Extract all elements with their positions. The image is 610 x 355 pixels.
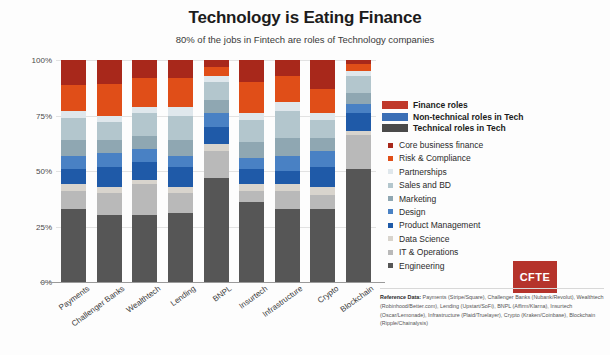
footnote-divider: [380, 288, 604, 289]
bar-infrastructure[interactable]: [275, 60, 300, 282]
bar-segment: [132, 78, 157, 107]
bar-segment: [61, 209, 86, 282]
legend-swatch: [388, 169, 393, 174]
bar-segment: [310, 209, 335, 282]
bar-segment: [204, 76, 229, 83]
legend-item-it-operations[interactable]: IT & Operations: [382, 247, 606, 257]
legend-group-row[interactable]: Technical roles in Tech: [382, 123, 606, 133]
legend-group-row[interactable]: Finance roles: [382, 100, 606, 110]
bar-segment: [275, 156, 300, 172]
legend-item-data-science[interactable]: Data Science: [382, 234, 606, 244]
bar-segment: [204, 178, 229, 282]
bar-segment: [204, 82, 229, 100]
legend-item-engineering[interactable]: Engineering: [382, 261, 606, 271]
legend-group-row[interactable]: Non-technical roles in Tech: [382, 112, 606, 122]
bar-segment: [61, 169, 86, 185]
bar-segment: [346, 76, 371, 94]
legend-label: Marketing: [399, 194, 436, 204]
bar-segment: [275, 111, 300, 138]
legend-series-items: Core business financeRisk & CompliancePa…: [382, 140, 606, 271]
bar-segment: [168, 193, 193, 213]
bar-segment: [168, 156, 193, 167]
bar-segment: [310, 60, 335, 89]
legend-item-product-management[interactable]: Product Management: [382, 220, 606, 230]
legend-item-marketing[interactable]: Marketing: [382, 194, 606, 204]
bar-segment: [310, 89, 335, 113]
bar-segment: [132, 107, 157, 114]
bar-lending[interactable]: [168, 60, 193, 282]
bar-segment: [310, 167, 335, 187]
bar-segment: [239, 184, 264, 191]
legend-groups: Finance rolesNon-technical roles in Tech…: [382, 100, 606, 133]
bar-segment: [132, 149, 157, 162]
bar-segment: [97, 187, 122, 194]
footnote-label: Reference Data:: [380, 294, 421, 300]
bar-segment: [239, 169, 264, 185]
bar-segment: [346, 113, 371, 131]
legend-item-core-business-finance[interactable]: Core business finance: [382, 140, 606, 150]
legend-label: Product Management: [399, 220, 480, 230]
bar-segment: [275, 171, 300, 184]
y-axis: 0%25%50%75%100%: [0, 60, 52, 282]
bar-segment: [239, 142, 264, 158]
x-axis-tick-label: Crypto: [316, 284, 340, 305]
page-title: Technology is Eating Finance: [0, 8, 610, 28]
legend-label: Sales and BD: [399, 180, 451, 190]
legend-item-partnerships[interactable]: Partnerships: [382, 167, 606, 177]
bar-segment: [97, 153, 122, 166]
bar-segment: [97, 215, 122, 282]
bar-segment: [132, 136, 157, 149]
bar-segment: [132, 215, 157, 282]
bar-segment: [204, 127, 229, 145]
bar-segment: [239, 191, 264, 202]
bar-segment: [275, 60, 300, 76]
bar-segment: [168, 107, 193, 116]
x-axis-tick-label: Wealthtech: [125, 284, 163, 315]
y-axis-tick-label: 100%: [4, 56, 52, 65]
bar-challenger-banks[interactable]: [97, 60, 122, 282]
bar-segment: [61, 85, 86, 112]
bar-segment: [61, 118, 86, 140]
x-axis-line: [40, 282, 385, 283]
bar-segment: [168, 78, 193, 107]
bar-segment: [61, 111, 86, 118]
bar-segment: [204, 144, 229, 151]
bar-blockchain[interactable]: [346, 60, 371, 282]
bar-payments[interactable]: [61, 60, 86, 282]
bar-segment: [204, 60, 229, 67]
bar-segment: [310, 151, 335, 167]
bar-segment: [97, 60, 122, 84]
bar-segment: [346, 169, 371, 282]
legend-swatch: [388, 223, 393, 228]
x-axis-tick-label: Insurtech: [237, 284, 269, 311]
bar-crypto[interactable]: [310, 60, 335, 282]
bar-segment: [346, 104, 371, 113]
bar-segment: [132, 184, 157, 215]
bar-segment: [204, 67, 229, 76]
y-axis-tick-label: 25%: [4, 223, 52, 232]
legend-swatch: [388, 236, 393, 241]
legend-swatch: [388, 250, 393, 255]
chart-root: Technology is Eating Finance 80% of the …: [0, 0, 610, 355]
legend-item-risk-compliance[interactable]: Risk & Compliance: [382, 153, 606, 163]
cfte-logo-text: CFTE: [520, 271, 551, 283]
legend-item-sales-and-bd[interactable]: Sales and BD: [382, 180, 606, 190]
bar-bnpl[interactable]: [204, 60, 229, 282]
bar-segment: [97, 193, 122, 215]
bar-segment: [239, 82, 264, 113]
plot-area: [56, 60, 376, 282]
bar-segment: [275, 184, 300, 191]
legend-label: IT & Operations: [399, 247, 458, 257]
legend-swatch: [388, 183, 393, 188]
legend-item-design[interactable]: Design: [382, 207, 606, 217]
legend-label: Data Science: [399, 234, 450, 244]
bar-insurtech[interactable]: [239, 60, 264, 282]
legend-label: Core business finance: [399, 140, 483, 150]
bar-segment: [61, 140, 86, 156]
bar-segment: [97, 122, 122, 140]
bar-segment: [204, 151, 229, 178]
legend-swatch: [388, 196, 393, 201]
bar-wealthtech[interactable]: [132, 60, 157, 282]
bar-segment: [275, 209, 300, 282]
bar-segment: [204, 100, 229, 113]
